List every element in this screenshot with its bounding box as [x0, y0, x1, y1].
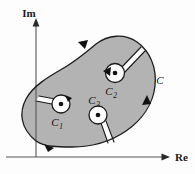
- contour-diagram-figure: Im Re C C 1 C 2 C 3: [0, 0, 195, 174]
- singularity-dot-c1: [59, 102, 64, 107]
- inner-contour-c3-label: C: [88, 94, 96, 106]
- inner-contour-c2-subscript: 2: [113, 91, 117, 100]
- inner-contour-c2-label: C: [105, 85, 113, 97]
- singularity-dot-c2: [113, 71, 118, 76]
- inner-contour-c1-label: C: [51, 116, 59, 128]
- inner-contour-c1-subscript: 1: [59, 122, 63, 131]
- singularity-dot-c3: [96, 113, 101, 118]
- figure-canvas: Im Re C C 1 C 2 C 3: [0, 0, 195, 174]
- outer-contour-label: C: [156, 74, 164, 86]
- inner-contour-c3-subscript: 3: [95, 100, 100, 109]
- shaded-region-group: [0, 0, 195, 174]
- real-axis-label: Re: [175, 151, 188, 163]
- shaded-region: [0, 0, 195, 174]
- imaginary-axis-label: Im: [22, 7, 35, 19]
